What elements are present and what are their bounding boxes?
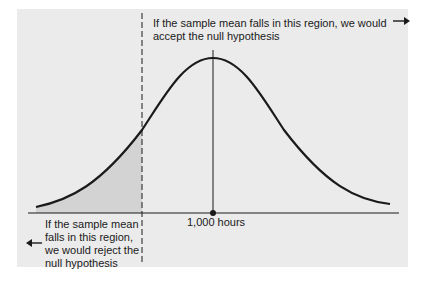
mean-axis-label: 1,000 hours	[187, 216, 245, 229]
accept-line-2: accept the null hypothesis	[153, 30, 387, 43]
reject-line-1: If the sample mean	[45, 218, 139, 231]
reject-line-4: null hypothesis	[45, 257, 139, 270]
left-arrow-icon	[26, 239, 42, 247]
accept-region-annotation: If the sample mean falls in this region,…	[153, 17, 387, 43]
reject-line-2: falls in this region,	[45, 231, 139, 244]
accept-line-1: If the sample mean falls in this region,…	[153, 17, 387, 30]
rejection-region-shade	[36, 130, 142, 213]
right-arrow-icon	[393, 17, 410, 25]
reject-region-annotation: If the sample mean falls in this region,…	[45, 218, 139, 270]
reject-line-3: we would reject the	[45, 244, 139, 257]
